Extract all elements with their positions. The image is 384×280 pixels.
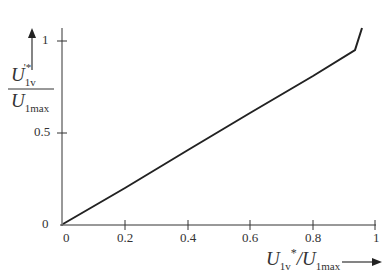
y-tick-label-0: 0 xyxy=(42,216,49,232)
data-line xyxy=(63,28,362,224)
x-tick-label-0.8: 0.8 xyxy=(305,230,321,246)
y-tick-label-0.5: 0.5 xyxy=(34,124,50,140)
x-tick-label-0.6: 0.6 xyxy=(242,230,258,246)
arrow-up-icon xyxy=(28,28,36,38)
y-axis-label-denominator: U1max xyxy=(11,90,49,112)
arrow-right-icon xyxy=(372,258,382,266)
y-tick-label-1: 1 xyxy=(42,32,49,48)
x-tick-label-1: 1 xyxy=(373,230,380,246)
x-tick-label-0: 0 xyxy=(63,230,70,246)
x-tick-label-0.4: 0.4 xyxy=(180,230,196,246)
y-axis-label-numerator: U1v'* xyxy=(11,64,43,86)
x-axis-label: U1v*/U1max xyxy=(266,248,340,270)
x-tick-label-0.2: 0.2 xyxy=(117,230,133,246)
